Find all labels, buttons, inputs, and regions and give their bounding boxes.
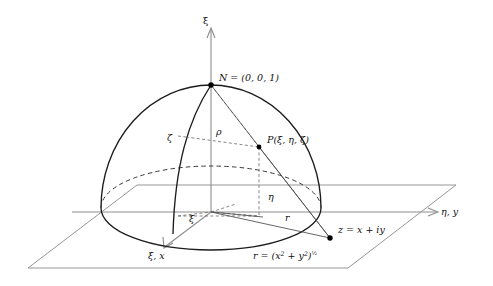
label-xi: ξ: [189, 213, 195, 224]
riemann-sphere-diagram: ξ N = (0, 0, 1) P(ξ, η, ζ) ζ ρ η ξ r η, …: [0, 0, 493, 286]
r-formula-mid: + y: [285, 250, 305, 261]
label-zeta: ζ: [167, 132, 173, 143]
label-eta: η: [268, 191, 274, 202]
point-P-dot: [257, 145, 262, 150]
label-rho: ρ: [215, 126, 222, 137]
axes-group: [72, 28, 438, 248]
label-r: r: [285, 212, 291, 223]
axis-label-vertical-xi: ξ: [203, 15, 208, 26]
r-formula-lhs: r = (x: [253, 250, 281, 261]
axis-label-eta-y: η, y: [441, 206, 459, 217]
dashed-base-diagonal: [211, 204, 236, 212]
stereographic-projection-figure: ξ N = (0, 0, 1) P(ξ, η, ζ) ζ ρ η ξ r η, …: [0, 0, 493, 286]
dashed-rho-segment: [186, 137, 259, 147]
label-point-p: P(ξ, η, ζ): [266, 134, 309, 145]
label-z-complex: z = x + iy: [337, 224, 385, 235]
dashed-zeta-tick: [178, 136, 186, 137]
label-north-pole: N = (0, 0, 1): [218, 72, 279, 83]
plane-edge-left: [28, 185, 137, 268]
axis-label-xi-x: ξ, x: [148, 250, 165, 261]
point-z-dot: [327, 235, 332, 240]
construction-lines: [178, 85, 259, 216]
r-formula-exponent: ½: [311, 250, 317, 256]
label-r-formula: r = (x2 + y2)½: [253, 250, 317, 261]
point-N-dot: [208, 82, 213, 87]
complex-plane: [28, 185, 456, 268]
